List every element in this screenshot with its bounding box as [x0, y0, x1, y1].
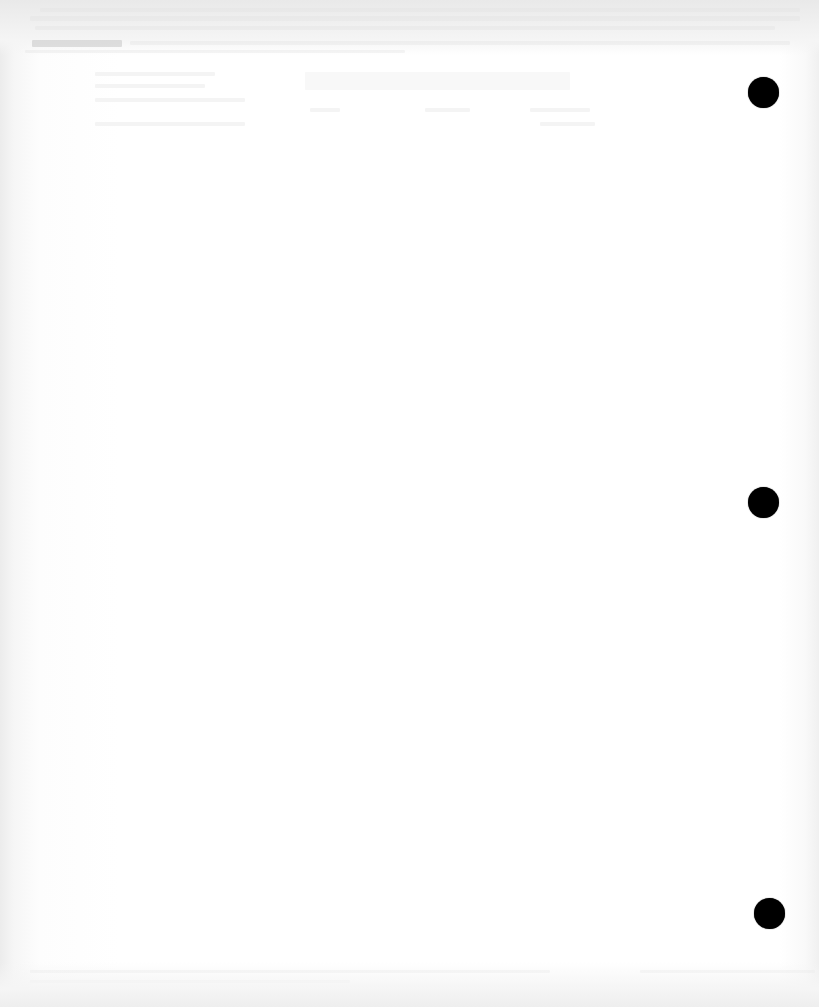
- bleed-through-line: [40, 8, 800, 12]
- bleed-through-line: [130, 41, 790, 45]
- bleed-through-text: [540, 122, 595, 126]
- bottom-scan-shadow: [0, 962, 819, 1007]
- bleed-through-line: [35, 26, 775, 30]
- hole-punch-bottom: [754, 898, 785, 929]
- bleed-through-line: [30, 16, 800, 21]
- bleed-through-text: [95, 72, 215, 76]
- bleed-through-text: [95, 122, 245, 126]
- bleed-through-text: [95, 84, 205, 88]
- bleed-through-heading: [32, 40, 122, 47]
- bleed-through-text: [530, 108, 590, 112]
- bleed-through-text: [95, 98, 245, 102]
- bleed-through-text: [310, 108, 340, 112]
- bleed-through-text: [425, 108, 470, 112]
- hole-punch-top: [748, 77, 779, 108]
- bleed-through-title: [305, 72, 570, 90]
- bleed-through-line: [25, 50, 405, 53]
- hole-punch-middle: [748, 487, 779, 518]
- scanned-page: [0, 0, 819, 1007]
